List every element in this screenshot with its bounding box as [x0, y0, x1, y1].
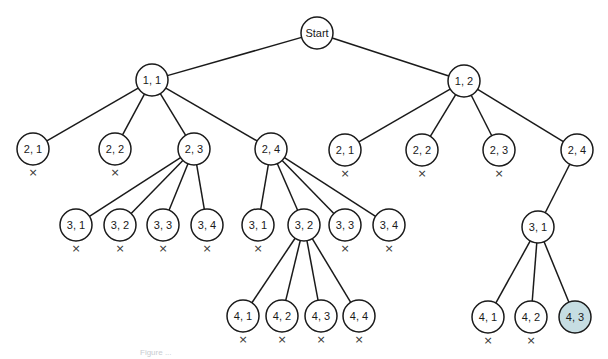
tree-edge — [544, 242, 569, 302]
tree-edge — [545, 164, 570, 212]
tree-node: 3, 2× — [104, 209, 136, 255]
node-label: 3, 2 — [111, 219, 129, 231]
tree-node: 2, 3× — [483, 134, 515, 180]
tree-edge — [430, 95, 455, 137]
tree-node: 4, 2× — [515, 301, 547, 347]
tree-edge — [160, 94, 185, 136]
tree-node: 3, 3× — [147, 209, 179, 255]
tree-edge — [166, 88, 257, 141]
tree-node: 3, 1× — [242, 209, 274, 255]
tree-node: 4, 3× — [305, 300, 337, 346]
tree-edge — [282, 160, 334, 213]
pruned-x-icon: × — [253, 242, 262, 255]
node-label: 3, 3 — [154, 219, 172, 231]
pruned-x-icon: × — [277, 333, 286, 346]
pruned-x-icon: × — [494, 167, 503, 180]
node-label: 3, 1 — [529, 221, 547, 233]
pruned-x-icon: × — [340, 242, 349, 255]
node-label: 2, 3 — [185, 143, 203, 155]
tree-node: 2, 2× — [99, 133, 131, 179]
tree-node: 4, 1× — [227, 300, 259, 346]
pruned-x-icon: × — [202, 242, 211, 255]
tree-edge — [359, 89, 450, 142]
tree-node: 4, 2× — [266, 300, 298, 346]
tree-edge — [123, 94, 145, 135]
node-label: 3, 1 — [67, 219, 85, 231]
pruned-x-icon: × — [316, 333, 325, 346]
pruned-x-icon: × — [158, 242, 167, 255]
tree-node: 3, 3× — [329, 209, 361, 255]
backtracking-tree-diagram: Start1, 11, 22, 1×2, 2×2, 32, 42, 1×2, 2… — [0, 0, 608, 359]
pruned-x-icon: × — [354, 333, 363, 346]
tree-edge — [307, 241, 318, 301]
node-label: 4, 4 — [350, 310, 368, 322]
tree-node: 2, 2× — [406, 134, 438, 180]
tree-edge — [496, 241, 530, 303]
tree-node: 3, 1 — [522, 211, 554, 243]
node-label: 4, 1 — [234, 310, 252, 322]
tree-edge — [471, 95, 492, 135]
pruned-x-icon: × — [115, 242, 124, 255]
node-label: 2, 1 — [24, 143, 42, 155]
node-label: 4, 2 — [522, 311, 540, 323]
tree-edge — [261, 165, 269, 209]
node-label: 3, 3 — [336, 219, 354, 231]
tree-node: 2, 3 — [178, 133, 210, 165]
tree-node: 2, 1× — [17, 133, 49, 179]
tree-node: 4, 1× — [472, 301, 504, 347]
tree-edge — [89, 158, 180, 217]
tree-edges — [47, 37, 570, 303]
tree-edge — [532, 243, 537, 301]
pruned-x-icon: × — [110, 166, 119, 179]
node-label: 2, 2 — [413, 144, 431, 156]
tree-edge — [131, 160, 183, 213]
pruned-x-icon: × — [417, 167, 426, 180]
node-label: 3, 4 — [198, 219, 216, 231]
pruned-x-icon: × — [526, 334, 535, 347]
tree-nodes: Start1, 11, 22, 1×2, 2×2, 32, 42, 1×2, 2… — [17, 17, 593, 347]
goal-node: 4, 3 — [559, 301, 591, 333]
pruned-x-icon: × — [28, 166, 37, 179]
node-label: 4, 3 — [312, 310, 330, 322]
tree-node: 2, 4 — [255, 133, 287, 165]
node-label: 4, 2 — [273, 310, 291, 322]
tree-edge — [47, 88, 138, 141]
tree-node: 3, 4× — [373, 209, 405, 255]
node-label: 2, 2 — [106, 143, 124, 155]
pruned-x-icon: × — [71, 242, 80, 255]
tree-edge — [332, 38, 449, 76]
tree-edge — [167, 37, 301, 75]
node-label: 1, 2 — [455, 75, 473, 87]
node-label: 3, 1 — [249, 219, 267, 231]
node-label: 1, 1 — [143, 74, 161, 86]
pruned-x-icon: × — [483, 334, 492, 347]
node-label: 2, 3 — [490, 144, 508, 156]
pruned-x-icon: × — [238, 333, 247, 346]
tree-edge — [277, 164, 297, 211]
node-label: 2, 4 — [262, 143, 280, 155]
pruned-x-icon: × — [340, 167, 349, 180]
tree-edge — [197, 165, 205, 209]
tree-node: 3, 2 — [288, 209, 320, 241]
node-label: 3, 2 — [295, 219, 313, 231]
tree-node: 2, 1× — [329, 134, 361, 180]
tree-node: 3, 4× — [191, 209, 223, 255]
tree-edge — [284, 158, 375, 217]
node-label: 4, 1 — [479, 311, 497, 323]
node-label: 3, 4 — [380, 219, 398, 231]
tree-node: 4, 4× — [343, 300, 375, 346]
tree-node: 2, 4 — [561, 134, 593, 166]
node-label: Start — [305, 27, 328, 39]
tree-node: 3, 1× — [60, 209, 92, 255]
tree-node: 1, 2 — [448, 65, 480, 97]
node-label: 4, 3 — [566, 311, 584, 323]
start-node: Start — [301, 17, 333, 49]
node-label: 2, 4 — [568, 144, 586, 156]
node-label: 2, 1 — [336, 144, 354, 156]
tree-node: 1, 1 — [136, 64, 168, 96]
pruned-x-icon: × — [384, 242, 393, 255]
figure-caption: Figure ... — [140, 348, 172, 357]
